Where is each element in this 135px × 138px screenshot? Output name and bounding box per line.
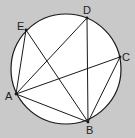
circumscribed-circle (11, 14, 121, 124)
label-D: D (83, 4, 91, 16)
point-D (86, 17, 89, 20)
point-C (119, 56, 122, 59)
point-B (87, 121, 90, 124)
label-E: E (17, 20, 24, 32)
point-E (25, 29, 28, 32)
label-A: A (5, 90, 13, 102)
point-A (15, 93, 18, 96)
label-B: B (86, 124, 93, 136)
circle-diagram: A B C D E (0, 0, 135, 138)
label-C: C (122, 51, 130, 63)
